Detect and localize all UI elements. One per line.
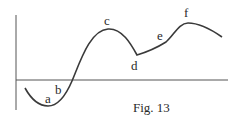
point-label-b: b	[55, 82, 62, 97]
point-label-f: f	[184, 5, 189, 20]
figure-caption: Fig. 13	[133, 100, 170, 115]
figure-13-diagram: a b c d e f Fig. 13	[0, 0, 241, 121]
point-label-a: a	[45, 91, 51, 106]
point-label-c: c	[104, 13, 110, 28]
point-label-e: e	[157, 28, 163, 43]
point-label-d: d	[131, 58, 138, 73]
